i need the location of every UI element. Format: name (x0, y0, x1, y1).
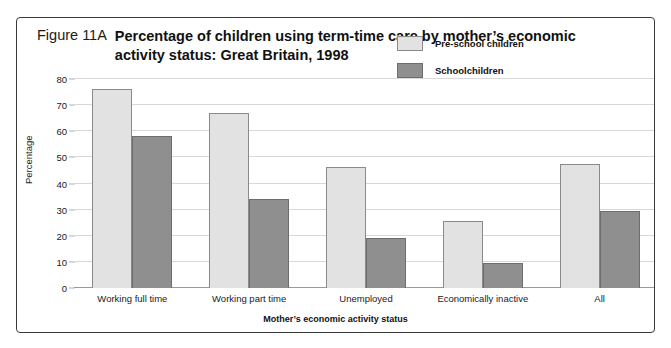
bar (443, 221, 483, 288)
bar (132, 136, 172, 288)
x-axis-category-label: Unemployed (339, 293, 392, 304)
y-axis-tick-label: 40 (47, 178, 67, 189)
y-axis-tick-label: 0 (47, 283, 67, 294)
bar (249, 199, 289, 288)
legend-label: Schoolchildren (435, 65, 504, 76)
bar-group (209, 79, 289, 288)
legend-swatch (397, 36, 423, 51)
legend-item: Schoolchildren (397, 63, 524, 78)
chart-legend: Pre-school childrenSchoolchildren (397, 36, 524, 78)
x-axis-title: Mother’s economic activity status (17, 314, 654, 324)
legend-swatch (397, 63, 423, 78)
bar (366, 238, 406, 288)
x-axis-category-label: Economically inactive (437, 293, 528, 304)
bar-group (443, 79, 523, 288)
legend-label: Pre-school children (435, 38, 524, 49)
figure-header: Figure 11A Percentage of children using … (37, 27, 637, 64)
x-axis-category-label: All (594, 293, 605, 304)
y-axis-tick-label: 30 (47, 204, 67, 215)
y-axis-tick-label: 60 (47, 126, 67, 137)
bar-group (92, 79, 172, 288)
plot-area: Working full timeWorking part timeUnempl… (74, 79, 655, 288)
bar-group (560, 79, 640, 288)
y-axis-tick-label: 10 (47, 256, 67, 267)
bar (209, 113, 249, 288)
y-axis-tick-label: 80 (47, 74, 67, 85)
bar (560, 164, 600, 288)
y-axis-tick-label: 20 (47, 230, 67, 241)
legend-item: Pre-school children (397, 36, 524, 51)
y-axis-tick-label: 50 (47, 152, 67, 163)
figure-number: Figure 11A (37, 27, 107, 43)
bar (326, 167, 366, 288)
bar (483, 263, 523, 288)
x-axis-category-label: Working full time (97, 293, 167, 304)
bar-group (326, 79, 406, 288)
bar (92, 89, 132, 288)
y-axis-ticks: 01020304050607080 (45, 79, 67, 288)
figure-container: Figure 11A Percentage of children using … (16, 17, 655, 333)
y-axis-tick-label: 70 (47, 100, 67, 111)
bar (600, 211, 640, 288)
x-axis-category-label: Working part time (212, 293, 286, 304)
y-axis-title: Percentage (23, 135, 34, 184)
